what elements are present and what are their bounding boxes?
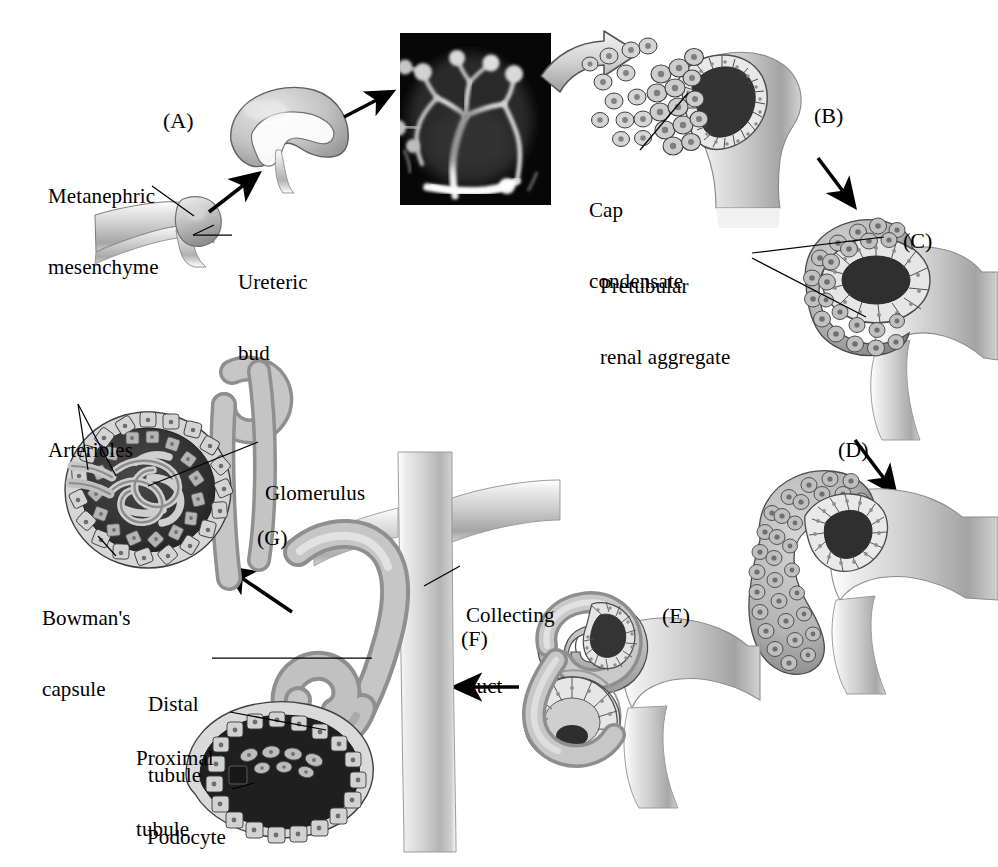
stage-label-e: (E) [662, 603, 690, 629]
label-pretubular-renal-aggregate-line1: Pretubular [600, 275, 730, 299]
arrow-a-to-branch [209, 174, 258, 212]
stage-label-d: (D) [838, 437, 869, 463]
label-collecting-duct-line1: Collecting [466, 604, 555, 628]
label-podocyte: Podocyte [147, 779, 226, 867]
cap-condensate-cells [582, 38, 708, 155]
label-cap-condensate-line1: Cap [589, 199, 683, 223]
branched-mesenchyme-mass [231, 87, 349, 193]
label-arterioles-line1: Arterioles [48, 439, 133, 463]
label-collecting-duct-line2: duct [466, 675, 555, 699]
label-metanephric-mesenchyme-line2: mesenchyme [48, 256, 159, 280]
stage-label-g: (G) [257, 525, 288, 551]
label-bowmans-capsule-line2: capsule [42, 678, 131, 702]
stage-label-c: (C) [903, 228, 932, 254]
label-glomerulus-line1: Glomerulus [265, 482, 365, 506]
arrow-branch-to-micrograph [344, 92, 392, 117]
label-ureteric-bud-line2: bud [238, 342, 308, 366]
label-pretubular-renal-aggregate-line2: renal aggregate [600, 346, 730, 370]
label-metanephric-mesenchyme-line1: Metanephric [48, 185, 159, 209]
label-bowmans-capsule: Bowman's capsule [42, 560, 131, 725]
stage-label-b: (B) [814, 103, 843, 129]
stage-label-f: (F) [461, 626, 488, 652]
label-podocyte-line1: Podocyte [147, 826, 226, 850]
label-glomerulus: Glomerulus [265, 435, 365, 529]
panel-c-artwork [752, 218, 998, 493]
label-pretubular-renal-aggregate: Pretubular renal aggregate [600, 228, 730, 393]
stage-label-a: (A) [163, 108, 194, 134]
label-metanephric-mesenchyme: Metanephric mesenchyme [48, 138, 159, 303]
label-proximal-tubule-line1: Proximal [136, 747, 214, 771]
arrow-b-to-c [818, 158, 854, 206]
label-ureteric-bud: Ureteric bud [238, 224, 308, 389]
label-arterioles: Arterioles [48, 392, 133, 486]
label-ureteric-bud-line1: Ureteric [238, 271, 308, 295]
label-bowmans-capsule-line1: Bowman's [42, 607, 131, 631]
nephron-development-figure: Metanephric mesenchyme Ureteric bud Cap … [0, 0, 998, 867]
ureteric-tree-micrograph [390, 33, 551, 205]
